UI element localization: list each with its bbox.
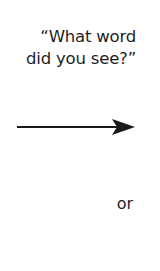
question-text: “What word did you see?” [26,26,136,70]
right-arrow-icon [16,118,136,136]
or-label: or [117,193,133,215]
question-line-1: “What word [26,26,136,48]
question-line-2: did you see?” [26,48,136,70]
